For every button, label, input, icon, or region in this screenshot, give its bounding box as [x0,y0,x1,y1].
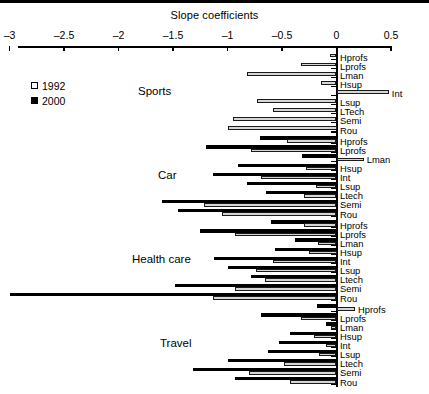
x-axis-tick-label: –1.5 [163,29,183,41]
bar-1992 [304,223,337,227]
row-tick [331,122,336,123]
x-axis-tick-label: –2.5 [54,29,74,41]
bar-1992 [287,139,336,143]
bar-1992 [249,371,336,375]
row-tick [331,77,336,78]
bar-1992 [337,90,389,94]
group-label: Travel [160,337,192,349]
bar-1992 [304,194,337,198]
bar-1992 [309,251,336,255]
bar-1992 [213,296,336,300]
bar-1992 [257,99,337,103]
x-axis-tick [336,46,337,51]
row-label: Rou [340,126,357,135]
row-label: Rou [340,378,357,387]
bar-1992 [261,176,336,180]
row-label: Lman [367,155,390,164]
bar-1992 [235,287,336,291]
bar-1992 [301,63,337,67]
bar-1992 [330,54,337,58]
row-label: Rou [340,210,357,219]
bar-1992 [251,149,336,153]
x-axis-tick [390,46,391,51]
bar-1992 [284,362,336,366]
row-tick [331,131,336,132]
bar-1992 [318,242,337,246]
bar-1992 [337,158,364,162]
group-label: Sports [138,85,171,97]
row-tick [331,86,336,87]
row-label: Rou [340,294,357,303]
bar-1992 [222,212,336,216]
bar-1992 [306,167,337,171]
plot-area: –3–2.5–2–1.5–1–0.500.5HprofsLprofsLmanHs… [0,0,429,394]
row-tick [331,161,336,162]
bar-1992 [326,344,337,348]
row-tick [331,68,336,69]
x-axis-tick-label: –3 [4,29,16,41]
bar-1992 [273,260,336,264]
group-label: Health care [132,253,191,265]
row-tick [331,95,336,96]
group-label: Car [158,169,177,181]
x-axis-tick [172,46,173,51]
bar-1992 [290,380,337,384]
x-axis-tick [227,46,228,51]
bar-1992 [265,278,337,282]
bar-1992 [273,108,336,112]
bar-2000 [302,154,337,157]
legend-swatch-1992-icon [31,82,38,89]
x-axis-tick-label: 0 [334,29,340,41]
bar-1992 [337,307,356,311]
row-tick [331,311,336,312]
x-axis-tick-label: –2 [113,29,125,41]
legend-label-2000: 2000 [42,95,65,107]
row-label: Int [392,89,402,98]
x-axis-tick [281,46,282,51]
bar-1992 [316,185,337,189]
bar-1992 [204,203,337,207]
legend: 1992 2000 [31,79,65,109]
row-tick [331,59,336,60]
figure-root: Slope coefficients –3–2.5–2–1.5–1–0.500.… [0,0,429,394]
x-axis-tick-label: –0.5 [272,29,292,41]
x-axis-tick-label: –1 [222,29,234,41]
row-tick [331,113,336,114]
legend-label-1992: 1992 [42,80,65,92]
bar-1992 [301,317,337,321]
bar-1992 [319,353,336,357]
legend-item-1992: 1992 [31,79,65,94]
legend-item-2000: 2000 [31,94,65,109]
bar-1992 [247,72,336,76]
x-axis-tick [118,46,119,51]
bar-1992 [235,233,336,237]
row-tick [331,104,336,105]
bar-1992 [314,335,337,339]
x-axis-tick-label: 0.5 [384,29,399,41]
bar-1992 [228,126,337,130]
bar-1992 [256,269,337,273]
bar-1992 [331,326,336,330]
bar-1992 [321,81,336,85]
row-label: Hsup [340,80,362,89]
x-axis-tick [63,46,64,51]
row-label: Lprofs [340,146,366,155]
legend-swatch-2000-icon [31,97,38,104]
bar-1992 [233,117,337,121]
bar-2000 [317,304,337,307]
x-axis-tick [9,46,10,51]
